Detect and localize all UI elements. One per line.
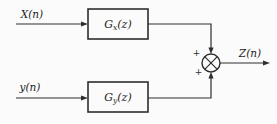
plus-sign-top: + — [193, 48, 201, 58]
arrowhead-icon — [208, 72, 213, 79]
block-label-gx: Gx(z) — [104, 18, 131, 33]
block-label-gy: Gy(z) — [104, 91, 131, 106]
output-label: Z(n) — [238, 47, 261, 59]
diagram-canvas: X(n) Gx(z) y(n) Gy(z) + + Z(n) — [0, 0, 277, 124]
connector-gx-to-summer — [148, 24, 211, 49]
block-diagram: X(n) Gx(z) y(n) Gy(z) + + Z(n) — [0, 0, 277, 124]
plus-sign-bottom: + — [195, 67, 203, 77]
input-label-y: y(n) — [19, 81, 41, 93]
input-label-x: X(n) — [20, 8, 43, 20]
circle-times-junction-icon — [202, 54, 220, 72]
gy-argument: (z) — [117, 91, 131, 104]
arrowhead-icon — [263, 60, 270, 65]
gy-name: G — [104, 91, 113, 104]
gx-name: G — [104, 18, 113, 31]
arrowhead-icon — [208, 48, 213, 55]
gx-argument: (z) — [117, 18, 131, 31]
arrowhead-icon — [81, 21, 88, 26]
connector-gy-to-summer — [148, 78, 211, 99]
arrowhead-icon — [81, 95, 88, 100]
